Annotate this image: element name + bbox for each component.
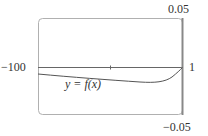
chart: 0.05 −0.05 −100 1 y = f(x) bbox=[0, 0, 208, 136]
x-max-label: 1 bbox=[189, 61, 195, 73]
y-max-label: 0.05 bbox=[168, 3, 189, 15]
plot-area bbox=[0, 0, 208, 136]
y-min-label: −0.05 bbox=[163, 121, 191, 133]
curve-label: y = f(x) bbox=[65, 77, 101, 92]
curve-f bbox=[38, 68, 183, 83]
x-min-label: −100 bbox=[1, 61, 26, 73]
